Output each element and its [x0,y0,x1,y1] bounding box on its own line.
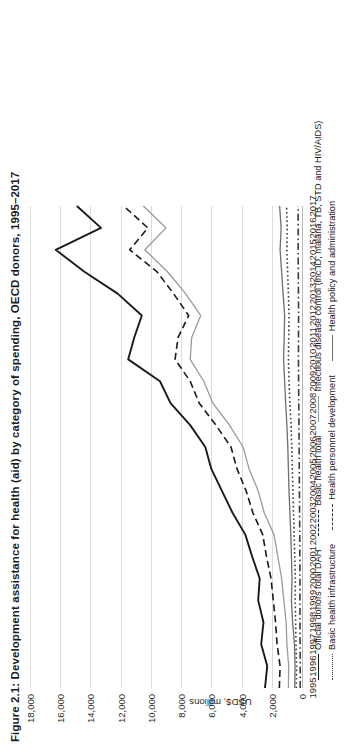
legend-label: Health personnel development [326,375,340,500]
legend-label: Official donors total DAH [312,550,326,650]
legend-item[interactable]: Official donors total DAH [312,550,326,680]
series-line [298,206,300,688]
y-axis-tick-label: 10,000 [145,694,156,723]
y-axis-tick-label: 0 [297,694,308,699]
series-line [124,206,280,688]
figure-title: Figure 2.1: Development assistance for h… [8,122,22,742]
legend-label: Basic health infrastructure [326,544,340,650]
legend-item[interactable]: Basic health infrastructure [326,544,340,680]
y-axis-tick-label: 18,000 [25,694,36,723]
series-lines [30,206,302,688]
series-line [280,206,295,688]
legend-item[interactable]: Infectious disease control (inc ID, mala… [312,121,326,422]
y-axis-label: USD$, millions [176,697,266,708]
legend-line-swatch [318,396,319,422]
rotated-figure-wrapper: Figure 2.1: Development assistance for h… [0,0,348,750]
chart-legend: Official donors total DAHBasic health to… [312,10,340,680]
y-axis-tick-label: 2,000 [266,694,277,718]
axis-baseline [302,206,303,688]
plot-area: 02,0004,0006,0008,00010,00012,00014,0001… [30,206,302,688]
y-axis-tick-label: 14,000 [85,694,96,723]
legend-line-swatch [318,510,319,536]
x-axis-tick-label: 1995 [307,677,318,698]
plot-inner: 02,0004,0006,0008,00010,00012,00014,0001… [30,206,302,688]
legend-line-swatch [318,654,319,680]
legend-label: Basic health total [312,436,326,506]
series-line [143,206,288,688]
figure-container: Figure 2.1: Development assistance for h… [0,0,348,750]
y-axis-tick-label: 12,000 [115,694,126,723]
y-axis-tick-label: 16,000 [55,694,66,723]
legend-label: Infectious disease control (inc ID, mala… [312,121,326,392]
legend-line-swatch [332,654,333,680]
legend-line-swatch [332,504,333,530]
legend-item[interactable]: Health personnel development [326,375,340,530]
legend-label: Health policy and administration [326,201,340,331]
legend-line-swatch [332,335,333,361]
legend-item[interactable]: Health policy and administration [326,201,340,361]
legend-item[interactable]: Basic health total [312,436,326,536]
